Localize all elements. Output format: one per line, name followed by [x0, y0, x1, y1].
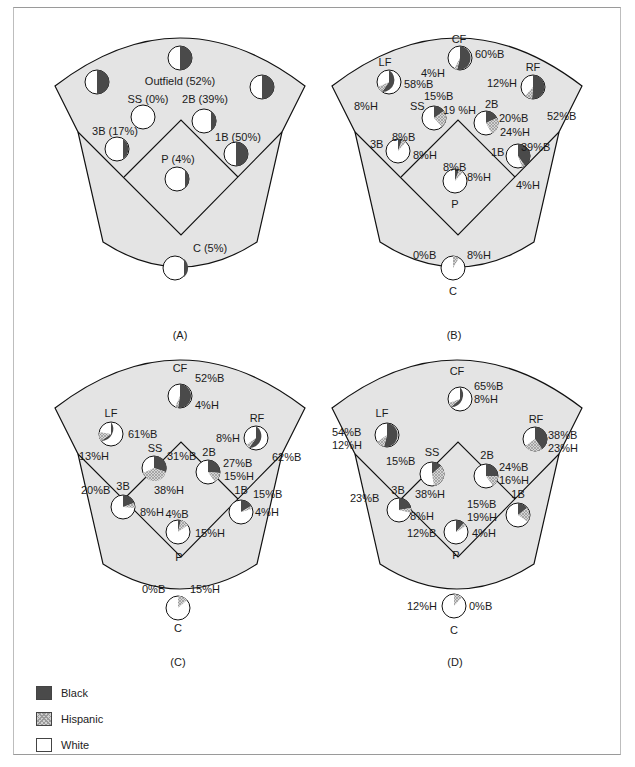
label-1b: 1B (50%) [215, 131, 261, 143]
label-c: C [174, 622, 182, 634]
pie-p [165, 167, 189, 191]
label-2b: 2B (39%) [182, 93, 228, 105]
label-lf-h: 8%H [354, 100, 378, 112]
label-lf: LF [105, 407, 118, 419]
label-c-b: 0%B [142, 583, 165, 595]
pie-ss [142, 456, 167, 481]
label-ss-b: 15%B [386, 455, 415, 467]
label-c: C [450, 624, 458, 636]
pie-rf [523, 427, 547, 451]
pie-2b [192, 109, 216, 133]
pie-p [444, 520, 468, 544]
label-rf: RF [526, 61, 541, 73]
label-3b-b: 20%B [81, 484, 110, 496]
label-c: C (5%) [193, 242, 227, 254]
label-p-b: 12%B [407, 527, 436, 539]
label-cf: CF [452, 33, 467, 45]
label-3b-h: 8%H [413, 149, 437, 161]
pie-lf [375, 423, 399, 447]
label-3b-h: 8%H [410, 510, 434, 522]
panel-d: CF 65%B 8%H LF 54%B 12%H RF 38%B 23%H SS… [332, 360, 582, 668]
pie-outfield-cf [168, 46, 192, 70]
label-2b-b: 27%B [223, 457, 252, 469]
label-lf-b: 61%B [128, 428, 157, 440]
legend-label: Hispanic [61, 713, 103, 725]
label-p-h: 8%H [467, 171, 491, 183]
label-2b-h: 15%H [224, 470, 254, 482]
label-cf-b: 52%B [195, 372, 224, 384]
label-ss-h: 19 %H [443, 104, 476, 116]
legend: Black Hispanic White [36, 680, 103, 758]
label-p: P (4%) [161, 153, 194, 165]
label-3b-b: 8%B [392, 131, 415, 143]
legend-item-black: Black [36, 680, 103, 706]
label-rf-h: 23%H [548, 442, 578, 454]
pie-c [442, 594, 466, 618]
label-2b-h: 24%H [500, 126, 530, 138]
hispanic-swatch-icon [36, 712, 52, 726]
label-3b: 3B [116, 480, 129, 492]
label-cf-h: 8%H [474, 393, 498, 405]
label-2b-b: 24%B [499, 461, 528, 473]
caption-d: (D) [447, 656, 462, 668]
pie-lf [377, 70, 401, 94]
label-p-b: 4%B [165, 508, 188, 520]
label-cf-b: 60%B [475, 48, 504, 60]
label-2b: 2B [485, 98, 498, 110]
label-rf-h: 8%H [216, 432, 240, 444]
label-1b-h: 19%H [467, 511, 497, 523]
pie-3b [111, 495, 135, 519]
label-rf-b: 52%B [547, 110, 576, 122]
label-c-h: 12%H [407, 600, 437, 612]
black-swatch-icon [36, 686, 52, 700]
label-lf: LF [379, 56, 392, 68]
label-lf: LF [376, 407, 389, 419]
label-rf-h: 12%H [487, 77, 517, 89]
legend-label: Black [61, 687, 88, 699]
label-1b: 1B [511, 488, 524, 500]
label-3b: 3B [391, 484, 404, 496]
label-3b-b: 23%B [350, 492, 379, 504]
label-p-h: 4%H [472, 527, 496, 539]
label-rf-b: 38%B [548, 429, 577, 441]
label-ss: SS [148, 442, 163, 454]
label-c-b: 0%B [469, 600, 492, 612]
pie-outfield-lf [85, 70, 109, 94]
legend-item-hispanic: Hispanic [36, 706, 103, 732]
pie-3b [105, 137, 129, 161]
legend-item-white: White [36, 732, 103, 758]
label-c-h: 8%H [467, 249, 491, 261]
label-cf-h: 4%H [195, 399, 219, 411]
pie-c [166, 596, 190, 620]
label-c-b: 0%B [413, 249, 436, 261]
pie-cf [168, 384, 192, 408]
label-ss-h: 38%H [415, 488, 445, 500]
label-cf: CF [173, 362, 188, 374]
pie-1b [224, 142, 248, 166]
label-lf-b: 58%B [404, 78, 433, 90]
pie-c [441, 256, 465, 280]
panel-a: Outfield (52%) SS (0%) 2B (39%) 3B (17%)… [55, 38, 305, 341]
label-c: C [449, 285, 457, 297]
pie-ss [420, 462, 444, 486]
label-3b-h: 8%H [140, 506, 164, 518]
label-rf-b: 62%B [272, 451, 301, 463]
label-2b: 2B [202, 446, 215, 458]
white-swatch-icon [36, 738, 52, 752]
label-1b: 1B [234, 484, 247, 496]
label-1b-h: 4%H [255, 506, 279, 518]
label-p-h: 15%H [195, 527, 225, 539]
label-1b-b: 39%B [521, 141, 550, 153]
caption-c: (C) [170, 656, 185, 668]
label-3b: 3B [370, 138, 383, 150]
label-rf: RF [529, 413, 544, 425]
label-c-h: 15%H [190, 583, 220, 595]
label-1b-h: 4%H [516, 179, 540, 191]
label-ss: SS [425, 446, 440, 458]
label-p-b: 8%B [443, 161, 466, 173]
label-ss-b: 15%B [424, 90, 453, 102]
label-p: P [451, 198, 458, 210]
pie-rf [521, 75, 545, 99]
pie-2b [196, 460, 220, 484]
label-1b: 1B [491, 146, 504, 158]
